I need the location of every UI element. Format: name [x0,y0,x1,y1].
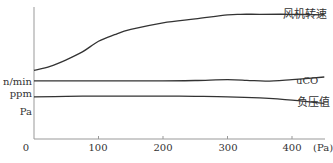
x-tick-label-400: 400 [282,143,301,153]
series-label-uco: uCO [296,76,318,86]
series-pressure [34,96,324,103]
y-label-uco-unit: ppm [2,89,32,99]
series-label-pressure: 负压值 [297,97,330,108]
series-uco [34,77,324,81]
x-unit-label: (Pa) [313,143,333,153]
x-tick-label-200: 200 [153,143,172,153]
series-fan-speed [34,14,324,70]
y-label-fan-speed-unit: n/min [2,77,32,87]
x-tick-label-100: 100 [88,143,107,153]
series-lines [34,14,324,103]
x-tick-label-300: 300 [218,143,237,153]
y-label-pressure-unit: Pa [2,107,32,117]
series-label-fan-speed: 风机转速 [283,9,327,20]
line-chart [0,0,333,163]
x-origin-label: 0 [23,143,29,153]
